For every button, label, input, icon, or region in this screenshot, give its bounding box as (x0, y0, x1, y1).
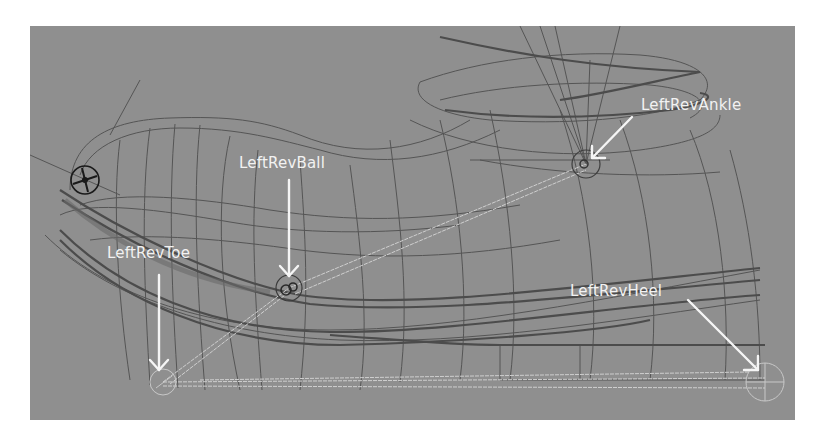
locator-icon[interactable] (71, 166, 99, 194)
joint-heel[interactable] (746, 363, 784, 401)
label-left-rev-toe: LeftRevToe (107, 245, 190, 261)
joint-ball[interactable] (276, 275, 302, 301)
label-left-rev-heel: LeftRevHeel (570, 283, 662, 299)
arrow-toe-icon (150, 275, 168, 370)
arrow-heel-icon (688, 300, 758, 370)
arrow-ball-icon (280, 180, 298, 276)
label-left-rev-ball: LeftRevBall (239, 155, 325, 171)
label-left-rev-ankle: LeftRevAnkle (641, 97, 741, 113)
3d-viewport[interactable]: LeftRevAnkle LeftRevBall LeftRevToe Left… (30, 26, 795, 420)
